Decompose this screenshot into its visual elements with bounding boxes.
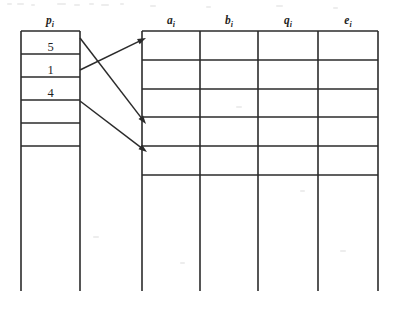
scan-speck	[93, 236, 99, 238]
scan-speck	[57, 3, 66, 5]
arrow-1-shaft	[80, 41, 140, 70]
left-table-cell-value: 1	[47, 63, 53, 77]
left-table-header-label: pi	[45, 14, 55, 29]
scan-speck	[206, 6, 211, 8]
scan-speck	[89, 3, 94, 5]
right-table-header-row: aibiqiei	[167, 14, 352, 29]
pointer-arrows	[80, 38, 147, 152]
right-table: aibiqiei	[142, 14, 378, 291]
left-table-cell-value: 4	[47, 86, 54, 100]
scan-speck	[17, 3, 24, 5]
right-table-header-e: ei	[344, 14, 352, 29]
left-table: 514 pi	[21, 14, 80, 291]
arrow-3-shaft	[80, 101, 142, 148]
scan-speck	[150, 5, 156, 7]
scan-noise-specks	[7, 3, 346, 264]
scan-speck	[101, 4, 109, 6]
scan-speck	[276, 5, 283, 7]
scan-speck	[300, 190, 305, 192]
scan-speck	[7, 3, 12, 5]
scan-speck	[180, 262, 185, 264]
right-table-header-q: qi	[284, 14, 293, 29]
diagram-canvas: 514 pi aibiqiei	[0, 0, 395, 311]
left-table-cell-value: 5	[47, 40, 53, 54]
scan-speck	[74, 4, 80, 6]
arrow-1	[80, 38, 146, 70]
arrow-3	[80, 101, 147, 152]
scan-speck	[31, 4, 35, 6]
left-table-values: 514	[47, 40, 54, 100]
scan-speck	[340, 250, 346, 252]
scan-speck	[333, 7, 338, 9]
scan-speck	[120, 3, 124, 5]
scan-speck	[236, 106, 242, 108]
arrow-2-shaft	[80, 38, 142, 119]
pointer-table-diagram: 514 pi aibiqiei	[0, 0, 395, 311]
right-table-header-a: ai	[167, 14, 176, 29]
right-table-header-b: bi	[225, 14, 234, 29]
arrow-2	[80, 38, 146, 124]
